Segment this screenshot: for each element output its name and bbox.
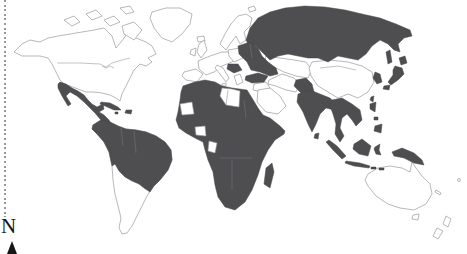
- new-zealand-north: [443, 216, 451, 227]
- region-oceania-white: [365, 162, 461, 239]
- ireland: [190, 48, 196, 56]
- greece: [234, 74, 243, 85]
- country-taiwan: [370, 96, 374, 102]
- greenland: [150, 8, 192, 42]
- philippines-luzon: [370, 102, 376, 112]
- compass-label: N: [1, 216, 29, 237]
- country-korea: [373, 72, 382, 84]
- island-sulawesi: [374, 144, 381, 155]
- philippines-visayas: [374, 117, 378, 120]
- sicily: [222, 83, 226, 86]
- united-kingdom: [197, 40, 207, 58]
- arctic-island: [120, 6, 134, 14]
- svalbard: [248, 6, 256, 12]
- japan-honshu: [388, 66, 404, 85]
- country-turkey: [245, 73, 268, 83]
- tasmania: [412, 214, 419, 220]
- compass: N: [1, 216, 29, 237]
- sakhalin: [386, 50, 392, 64]
- island-java: [345, 161, 370, 168]
- country-hispaniola: [125, 110, 132, 114]
- lesser-sunda: [371, 167, 376, 169]
- balkan-shaded-patch: [227, 64, 242, 73]
- country-jamaica: [115, 112, 118, 114]
- north-arrow-icon: [7, 241, 17, 254]
- country-mauritania-unshaded: [180, 102, 194, 115]
- west-africa-unshaded-patch: [195, 126, 206, 136]
- lesser-sunda: [379, 168, 384, 170]
- gabon-unshaded-patch: [208, 141, 217, 153]
- arctic-island: [86, 10, 102, 20]
- island-borneo: [353, 139, 371, 156]
- island-sumatra: [326, 140, 346, 159]
- arctic-island: [104, 16, 120, 26]
- italy: [215, 65, 229, 82]
- fiji: [458, 179, 461, 182]
- japan-hokkaido: [399, 56, 407, 65]
- iberia: [182, 69, 203, 82]
- china-mongolia: [309, 60, 374, 98]
- arabian-peninsula: [257, 88, 286, 114]
- region-northern-south-america: [92, 120, 172, 192]
- new-caledonia: [435, 190, 441, 195]
- new-zealand-south: [433, 228, 443, 239]
- region-north-america: [14, 6, 192, 101]
- country-sri-lanka: [314, 133, 319, 139]
- country-madagascar: [264, 163, 274, 188]
- region-mainland-southeast-asia: [330, 98, 362, 142]
- island-new-guinea: [392, 148, 424, 165]
- japan-kyushu: [383, 85, 390, 90]
- philippines-mindanao: [374, 124, 382, 133]
- arctic-island: [64, 16, 80, 26]
